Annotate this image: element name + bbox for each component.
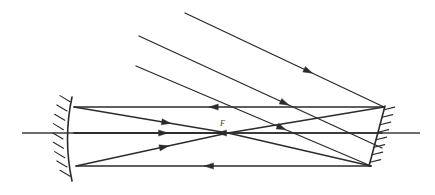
plane-mirror [369,106,385,166]
incoming-ray-2-line [139,36,382,148]
mirror-layer [53,96,395,181]
return-ray-bottom-arrowhead [204,163,214,169]
concave-mirror-hatch [60,96,70,102]
plane-mirror-hatch [378,130,389,133]
plane-mirror-hatch [376,137,387,140]
incoming-ray-1-line [185,13,384,107]
concave-mirror-hatch [57,105,67,111]
focal-point-label: F [220,119,225,128]
crossing-ray-lower [228,133,371,166]
incoming-ray-1 [185,13,384,107]
concave-mirror [68,97,73,181]
plane-mirror-hatch [372,152,383,155]
concave-mirror-hatch [53,124,63,130]
incoming-ray-3-line [136,66,371,166]
concave-mirror-hatch [60,170,70,176]
converging-ray-bottom [76,133,228,166]
concave-mirror-hatch [57,161,67,167]
concave-mirror-hatch [53,133,63,139]
converging-ray-top [74,107,228,133]
optics-ray-diagram: F [0,0,435,195]
incoming-ray-1-arrowhead [303,66,313,73]
converging-ray-top-line [74,107,228,133]
return-ray-top-arrowhead [209,104,219,110]
concave-mirror-hatch [55,114,65,120]
return-ray-top [74,104,384,110]
converging-ray-top-arrowhead [161,119,171,125]
plane-mirror-hatch [384,107,395,110]
incoming-ray-2-arrowhead [279,98,289,105]
plane-mirror-hatch [382,115,393,118]
incoming-ray-3 [136,66,371,166]
plane-mirror-hatch [370,160,381,163]
diagram-canvas [0,0,435,195]
incoming-ray-2 [139,36,382,148]
converging-ray-middle [74,130,228,136]
return-ray-bottom [76,163,371,169]
concave-mirror-hatch [53,142,63,148]
plane-mirror-hatch [380,122,391,125]
converging-ray-bottom-line [76,133,228,166]
crossing-ray-upper [228,107,384,133]
converging-ray-bottom-arrowhead [159,145,169,151]
ray-layer [74,13,384,169]
concave-mirror-hatch [55,152,65,158]
crossing-ray-upper-line [228,107,384,133]
crossing-ray-lower-line [228,133,371,166]
converging-ray-middle-arrowhead [159,130,169,136]
